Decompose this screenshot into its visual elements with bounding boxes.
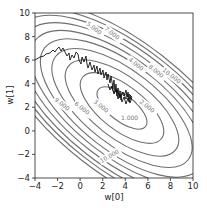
y-tick-label: 0 (25, 126, 30, 136)
y-axis-label: w[1] (5, 86, 15, 105)
y-axis: 10 8 6 4 2 0 −2 −4 w[1] (5, 8, 35, 183)
x-axis: −4 −2 0 2 4 6 8 10 w[0] (29, 178, 199, 202)
contour-lines: 1.000 2.000 3.000 4.000 5.000 6.000 7.00… (0, 0, 207, 208)
x-tick-label: −4 (29, 181, 42, 191)
x-tick-label: 4 (123, 181, 128, 191)
y-tick-label: 2 (25, 102, 30, 112)
x-tick-label: 8 (168, 181, 173, 191)
y-tick-label: 8 (25, 32, 30, 42)
x-tick-label: −2 (51, 181, 64, 191)
y-tick-label: 10 (19, 8, 30, 18)
y-tick-label: 6 (25, 55, 30, 65)
x-tick-label: 10 (188, 181, 199, 191)
y-tick-label: −4 (17, 173, 30, 183)
contour-chart: 1.000 2.000 3.000 4.000 5.000 6.000 7.00… (0, 0, 207, 208)
y-tick-label: −2 (17, 149, 30, 159)
contour-label-1: 1.000 (121, 114, 138, 121)
y-tick-label: 4 (25, 79, 30, 89)
x-tick-label: 6 (145, 181, 150, 191)
x-axis-label: w[0] (105, 192, 124, 202)
x-tick-label: 2 (100, 181, 105, 191)
x-tick-label: 0 (77, 181, 82, 191)
